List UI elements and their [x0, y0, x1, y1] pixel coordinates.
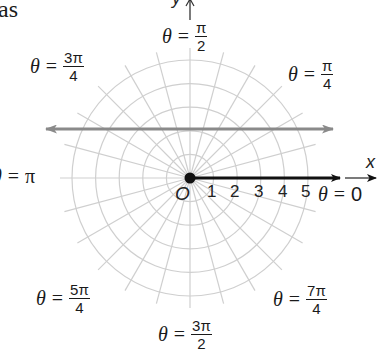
- grid-spoke: [156, 52, 190, 178]
- grid-spoke: [190, 178, 255, 291]
- grid-spoke: [125, 65, 190, 178]
- angle-label-pi-over-4: θ = π 4: [288, 58, 333, 91]
- tick-label-4: 4: [278, 182, 287, 202]
- angle-label-pi-over-2: θ = π 2: [162, 20, 207, 53]
- angle-label-7pi-over-4: θ = 7π 4: [273, 283, 327, 316]
- grid-spoke: [77, 113, 190, 178]
- tick-label-5: 5: [301, 182, 310, 202]
- grid-spoke: [98, 86, 190, 178]
- angle-label-3pi-over-2: θ = 3π 2: [158, 318, 212, 351]
- angle-label-3pi-over-4: θ = 3π 4: [30, 50, 84, 83]
- grid-spoke: [190, 86, 282, 178]
- tick-label-2: 2: [230, 182, 239, 202]
- grid-spoke: [190, 113, 303, 178]
- y-axis-label: y: [172, 0, 181, 9]
- grid-spoke: [190, 144, 316, 178]
- angle-label-pi: θ = π: [0, 165, 35, 188]
- tick-label-3: 3: [254, 182, 263, 202]
- grid-spoke: [64, 178, 190, 212]
- grid-spoke: [190, 52, 224, 178]
- pole-dot: [185, 173, 196, 184]
- tick-label-1: 1: [207, 182, 216, 202]
- angle-label-zero: θ = 0: [318, 183, 362, 206]
- x-axis-label: x: [366, 152, 375, 173]
- origin-label: O: [175, 183, 190, 205]
- grid-spoke: [77, 178, 190, 243]
- grid-spoke: [190, 65, 255, 178]
- angle-label-5pi-over-4: θ = 5π 4: [36, 282, 90, 315]
- grid-spoke: [64, 144, 190, 178]
